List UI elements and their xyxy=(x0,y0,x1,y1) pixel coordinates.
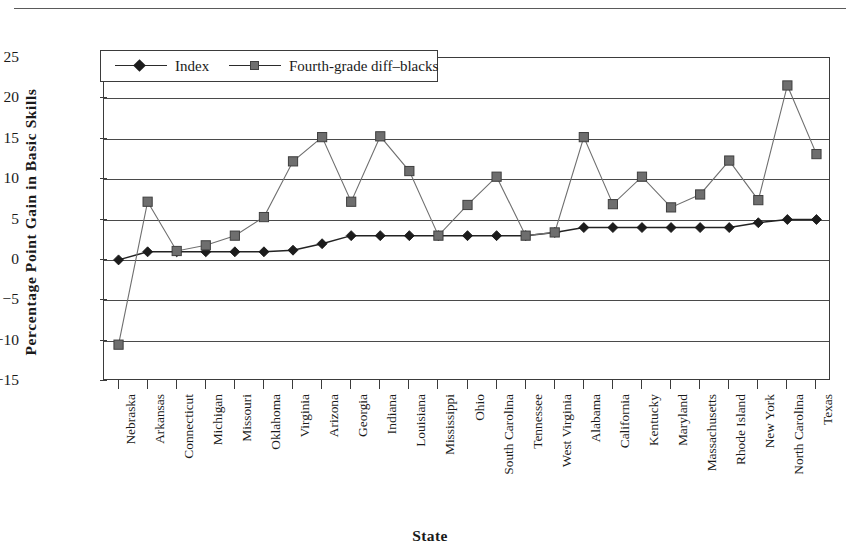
data-point-square xyxy=(318,133,327,142)
x-axis-tick-mark xyxy=(350,380,351,389)
x-axis-tick-label: Mississippi xyxy=(442,394,458,455)
data-point-square xyxy=(376,132,385,141)
y-axis-tick-label: −15 xyxy=(0,372,19,388)
data-point-square xyxy=(579,133,588,142)
data-point-diamond xyxy=(375,231,385,241)
x-axis-tick-label: Massachusetts xyxy=(704,394,720,471)
x-axis-tick-label: Maryland xyxy=(675,394,691,446)
x-axis-tick-mark xyxy=(263,380,264,389)
data-point-square xyxy=(201,241,210,250)
data-point-diamond xyxy=(346,231,356,241)
data-point-square xyxy=(608,200,617,209)
x-axis-tick-label: Ohio xyxy=(472,394,488,421)
data-point-square xyxy=(783,81,792,90)
x-axis-tick-mark xyxy=(699,380,700,389)
x-axis-tick-mark xyxy=(612,380,613,389)
x-axis-tick-mark xyxy=(118,380,119,389)
x-axis-tick-mark xyxy=(205,380,206,389)
x-axis-tick-mark xyxy=(437,380,438,389)
diamond-marker-icon xyxy=(115,59,167,73)
x-axis-tick-label: Connecticut xyxy=(181,394,197,459)
data-point-square xyxy=(812,149,821,158)
x-axis-title: State xyxy=(0,527,860,545)
x-axis-tick-mark xyxy=(234,380,235,389)
data-point-square xyxy=(666,203,675,212)
data-point-diamond xyxy=(753,218,763,228)
series-line xyxy=(119,85,817,344)
data-point-square xyxy=(492,172,501,181)
y-axis-tick-label: 5 xyxy=(0,211,19,227)
x-axis-tick-mark xyxy=(496,380,497,389)
data-point-square xyxy=(143,197,152,206)
legend-label: Index xyxy=(175,58,209,75)
x-axis-tick-mark xyxy=(292,380,293,389)
data-point-diamond xyxy=(695,223,705,233)
x-axis-tick-label: Kentucky xyxy=(646,394,662,446)
x-axis-tick-mark xyxy=(815,380,816,389)
x-axis-tick-label: Tennessee xyxy=(530,394,546,449)
x-axis-tick-label: Texas xyxy=(820,394,836,425)
data-point-square xyxy=(347,197,356,206)
data-point-square xyxy=(550,228,559,237)
data-point-square xyxy=(463,200,472,209)
y-axis-tick-label: 20 xyxy=(0,89,19,105)
data-point-diamond xyxy=(288,245,298,255)
data-point-diamond xyxy=(811,215,821,225)
x-axis-tick-mark xyxy=(147,380,148,389)
data-point-diamond xyxy=(463,231,473,241)
x-axis-tick-mark xyxy=(176,380,177,389)
data-point-diamond xyxy=(404,231,414,241)
x-axis-tick-label: Virginia xyxy=(297,394,313,438)
x-axis-tick-mark xyxy=(670,380,671,389)
x-axis-tick-mark xyxy=(786,380,787,389)
x-axis-tick-mark xyxy=(321,380,322,389)
x-axis-tick-mark xyxy=(554,380,555,389)
data-point-diamond xyxy=(724,223,734,233)
x-axis-tick-label: Arizona xyxy=(326,394,342,437)
data-point-square xyxy=(434,231,443,240)
data-point-square xyxy=(259,212,268,221)
x-axis-tick-mark xyxy=(525,380,526,389)
y-axis-tick-label: 25 xyxy=(0,49,19,65)
chart-legend: Index Fourth-grade diff–blacks xyxy=(100,50,438,82)
x-axis-tick-mark xyxy=(379,380,380,389)
x-axis-tick-label: Indiana xyxy=(384,394,400,434)
x-axis-tick-label: West Virginia xyxy=(559,394,575,467)
x-axis-tick-mark xyxy=(641,380,642,389)
x-axis-tick-label: Nebraska xyxy=(123,394,139,445)
x-axis-tick-label: Louisiana xyxy=(413,394,429,447)
data-point-square xyxy=(405,166,414,175)
data-point-square xyxy=(637,172,646,181)
x-axis-tick-mark xyxy=(467,380,468,389)
page-top-rule xyxy=(14,8,846,9)
data-series-layer xyxy=(104,58,831,381)
data-point-square xyxy=(288,157,297,166)
x-axis-tick-label: Arkansas xyxy=(152,394,168,444)
y-axis-tick-label: 15 xyxy=(0,130,19,146)
x-axis-tick-label: Oklahoma xyxy=(268,394,284,450)
data-point-diamond xyxy=(259,247,269,257)
data-point-diamond xyxy=(143,247,153,257)
square-marker-icon xyxy=(229,59,281,73)
x-axis-tick-label: New York xyxy=(762,394,778,448)
data-point-diamond xyxy=(492,231,502,241)
y-axis-tick-label: −10 xyxy=(0,332,19,348)
x-axis-tick-label: Alabama xyxy=(588,394,604,442)
data-point-diamond xyxy=(782,215,792,225)
legend-label: Fourth-grade diff–blacks xyxy=(289,58,438,75)
legend-entry-fourth-grade: Fourth-grade diff–blacks xyxy=(229,51,438,81)
x-axis-tick-mark xyxy=(728,380,729,389)
y-axis-tick-label: 10 xyxy=(0,170,19,186)
x-axis-tick-label: Michigan xyxy=(210,394,226,445)
x-axis-tick-label: Rhode Island xyxy=(733,394,749,465)
x-axis-tick-mark xyxy=(757,380,758,389)
x-axis-tick-label: California xyxy=(617,394,633,448)
x-axis-tick-mark xyxy=(408,380,409,389)
y-axis-tick-label: 0 xyxy=(0,251,19,267)
data-point-diamond xyxy=(666,223,676,233)
data-point-square xyxy=(114,340,123,349)
x-axis-tick-mark xyxy=(583,380,584,389)
data-point-square xyxy=(230,231,239,240)
data-point-square xyxy=(725,156,734,165)
legend-entry-index: Index xyxy=(115,51,209,81)
